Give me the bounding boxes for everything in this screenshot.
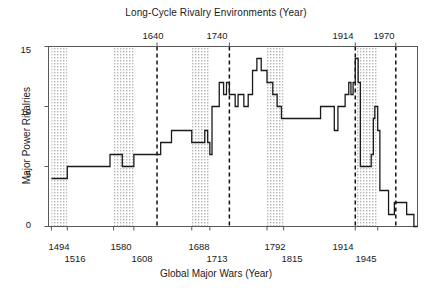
x-axis-ticks — [51, 227, 377, 231]
chart-figure: Long-Cycle Rivalry Environments (Year) G… — [0, 0, 432, 294]
top-axis-ticks — [157, 43, 396, 47]
plot-area — [0, 0, 432, 294]
y-axis-ticks — [45, 47, 49, 227]
war-period-bands — [51, 47, 377, 227]
